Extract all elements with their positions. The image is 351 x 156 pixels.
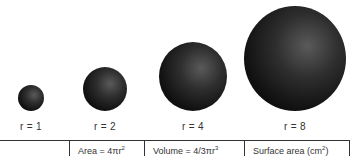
- sphere-r8: [244, 6, 346, 111]
- formula-table: Area = 4πr2 Volume = 4/3πr3 Surface area…: [0, 140, 350, 156]
- sphere-r4: [159, 42, 227, 111]
- sphere-label-r2: r = 2: [85, 121, 125, 132]
- sphere-r2: [83, 67, 127, 111]
- table-header-area: Area = 4πr2: [69, 141, 144, 156]
- table-header-surface-area: Surface area (cm2): [244, 141, 349, 156]
- sphere-r1: [18, 85, 44, 111]
- sphere-label-r4: r = 4: [173, 121, 213, 132]
- table-header-blank: [0, 141, 69, 156]
- table-header-volume: Volume = 4/3πr3: [144, 141, 244, 156]
- sphere-label-r8: r = 8: [275, 121, 315, 132]
- sphere-label-r1: r = 1: [11, 121, 51, 132]
